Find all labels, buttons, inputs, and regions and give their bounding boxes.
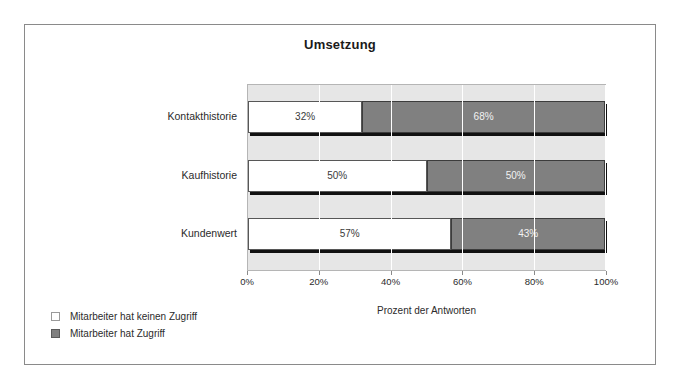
x-tick-mark <box>319 271 320 275</box>
legend-item-access: Mitarbeiter hat Zugriff <box>51 325 197 342</box>
legend-item-no-access: Mitarbeiter hat keinen Zugriff <box>51 308 197 325</box>
chart-frame: Umsetzung 32% 68% 50% 50% 57% 43% Kontak… <box>24 24 656 365</box>
x-tick-label: 100% <box>594 276 618 287</box>
no-access-swatch-icon <box>51 312 60 321</box>
bar-row: 57% 43% <box>248 218 605 250</box>
bar-segment-access: 43% <box>451 218 605 250</box>
x-tick-label: 80% <box>525 276 544 287</box>
x-axis: 0%20%40%60%80%100% <box>247 271 606 293</box>
bar-segment-no-access: 32% <box>248 101 362 133</box>
chart-title: Umsetzung <box>25 37 655 52</box>
x-tick-mark <box>534 271 535 275</box>
x-tick-mark <box>606 271 607 275</box>
stacked-bar-kaufhistorie: 50% 50% <box>248 160 605 192</box>
x-tick-mark <box>391 271 392 275</box>
bar-segment-access: 68% <box>362 101 605 133</box>
category-label-kaufhistorie: Kaufhistorie <box>47 169 237 181</box>
x-axis-title: Prozent der Antworten <box>247 305 606 316</box>
bar-segment-access: 50% <box>427 160 606 192</box>
x-tick-label: 40% <box>381 276 400 287</box>
x-tick-label: 20% <box>309 276 328 287</box>
x-tick-mark <box>247 271 248 275</box>
x-tick-mark <box>462 271 463 275</box>
stacked-bar-kundenwert: 57% 43% <box>248 218 605 250</box>
gridline <box>534 85 535 270</box>
gridline <box>605 85 606 270</box>
category-label-kundenwert: Kundenwert <box>47 227 237 239</box>
legend-label-access: Mitarbeiter hat Zugriff <box>70 328 165 339</box>
legend-label-no-access: Mitarbeiter hat keinen Zugriff <box>70 311 197 322</box>
bar-segment-no-access: 50% <box>248 160 427 192</box>
plot-area: 32% 68% 50% 50% 57% 43% <box>247 84 606 271</box>
bar-row: 32% 68% <box>248 101 605 133</box>
stacked-bar-kontakthistorie: 32% 68% <box>248 101 605 133</box>
bar-segment-no-access: 57% <box>248 218 451 250</box>
gridline <box>319 85 320 270</box>
gridline <box>462 85 463 270</box>
x-tick-label: 0% <box>240 276 254 287</box>
category-label-kontakthistorie: Kontakthistorie <box>47 110 237 122</box>
access-swatch-icon <box>51 329 60 338</box>
category-axis-labels: Kontakthistorie Kaufhistorie Kundenwert <box>35 84 237 271</box>
x-tick-label: 60% <box>453 276 472 287</box>
bar-row: 50% 50% <box>248 160 605 192</box>
chart-legend: Mitarbeiter hat keinen Zugriff Mitarbeit… <box>51 308 197 342</box>
gridline <box>391 85 392 270</box>
